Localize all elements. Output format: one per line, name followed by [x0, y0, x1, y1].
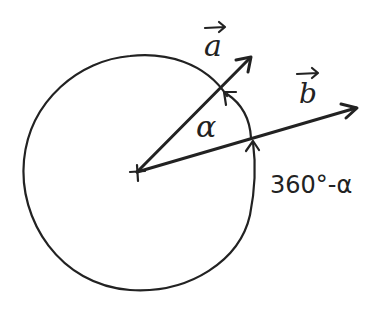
inner-angle-label: α — [196, 109, 216, 144]
outer-angle-label: 360°-α — [270, 171, 352, 199]
inner-angle-arc — [227, 94, 251, 138]
vector-a-label: a — [204, 22, 225, 63]
vector-a-text: a — [204, 28, 222, 63]
vector-angle-diagram: a b α 360°-α — [0, 0, 385, 316]
vector-b-text: b — [299, 77, 317, 110]
vector-b-label: b — [297, 68, 318, 110]
